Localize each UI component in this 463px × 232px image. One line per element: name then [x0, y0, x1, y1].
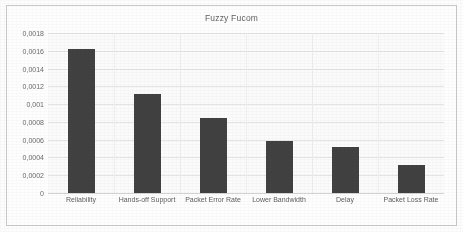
chart-figure: Fuzzy Fucom 00,00020,00040,00060,00080,0…	[0, 0, 463, 232]
bar	[398, 165, 425, 193]
y-tick-label: 0,0008	[23, 118, 44, 125]
bar	[68, 49, 95, 193]
x-tick-label: Packet Error Rate	[185, 196, 241, 203]
y-tick-label: 0	[40, 190, 44, 197]
y-tick-label: 0,0012	[23, 83, 44, 90]
y-tick-label: 0,001	[26, 101, 44, 108]
x-tick-label: Delay	[336, 196, 354, 203]
y-tick-label: 0,0016	[23, 47, 44, 54]
y-tick-label: 0,0004	[23, 154, 44, 161]
bar	[200, 118, 227, 193]
y-tick-label: 0,0006	[23, 136, 44, 143]
y-tick-label: 0,0014	[23, 65, 44, 72]
bar	[332, 147, 359, 193]
plot-area	[48, 33, 444, 193]
y-tick-label: 0,0018	[23, 30, 44, 37]
x-tick-label: Reliability	[66, 196, 96, 203]
y-tick-label: 0,0002	[23, 172, 44, 179]
y-axis: 00,00020,00040,00060,00080,0010,00120,00…	[0, 33, 44, 193]
bar-series	[48, 33, 444, 193]
bar	[134, 94, 161, 193]
bar	[266, 141, 293, 193]
x-tick-label: Packet Loss Rate	[384, 196, 439, 203]
x-axis: ReliabilityHands-off SupportPacket Error…	[48, 196, 444, 216]
chart-title: Fuzzy Fucom	[0, 13, 463, 23]
x-tick-label: Lower Bandwidth	[252, 196, 306, 203]
gridline	[48, 193, 444, 194]
x-tick-label: Hands-off Support	[119, 196, 176, 203]
